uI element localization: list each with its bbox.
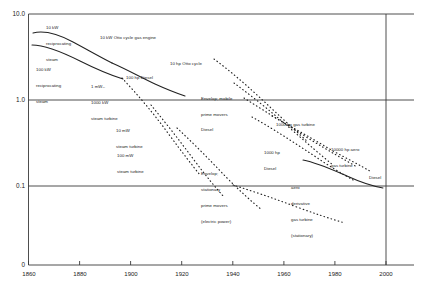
y-tick-label-0: 0 xyxy=(1,261,25,268)
annotation-line: 1000 kW xyxy=(91,100,118,105)
annotation-line: prime movers xyxy=(201,112,232,117)
y-tick-label-0-1: 0.1 xyxy=(1,182,25,189)
x-tick-label-1860: 1860 xyxy=(17,271,41,277)
annotation-line: 100 kW xyxy=(36,67,61,72)
annotation-1000hp-diesel: 1000 hp Diesel xyxy=(264,139,280,182)
annotation-line: stationary xyxy=(201,187,231,192)
annotation-line: 1 mW– xyxy=(91,84,118,89)
annotation-envelop-stationary-prime-movers: Envelop; stationary prime movers (electr… xyxy=(201,160,231,236)
annotation-line: (electric power) xyxy=(201,219,231,224)
annotation-line: gas turbine xyxy=(331,163,359,168)
x-tick-label-1900: 1900 xyxy=(119,271,143,277)
annotation-100hp-diesel: 100 hp Diesel xyxy=(126,75,153,80)
annotation-line: derivative xyxy=(291,201,313,206)
annotation-line: Envelop; mobile xyxy=(201,96,232,101)
annotation-100kw-reciprocating-steam: 100 kW reciprocating steam xyxy=(36,56,61,115)
annotation-100mw-steam-turbine: 100 mW steam turbine xyxy=(117,142,144,185)
chart-container: 10.0 1.0 0.1 0 1860 1880 1900 1920 1940 … xyxy=(0,0,423,298)
x-tick-label-1920: 1920 xyxy=(170,271,194,277)
annotation-line: (stationary) xyxy=(291,233,313,238)
annotation-line: 100 mW xyxy=(117,153,144,158)
annotation-10000hp-aero-gas-turbine: 10000 hp aero gas turbine xyxy=(331,136,359,179)
x-tick-label-1960: 1960 xyxy=(272,271,296,277)
annotation-10kw-otto-cycle-gas-engine: 10 kW Otto cycle gas engine xyxy=(100,35,156,40)
annotation-diesel-mid: Diesel xyxy=(201,127,213,132)
x-tick-label-2000: 2000 xyxy=(374,271,398,277)
annotation-line: reciprocating xyxy=(46,41,71,46)
annotation-line: 10 mW xyxy=(116,128,143,133)
annotation-line: steam turbine xyxy=(117,169,144,174)
annotation-line: gas turbine xyxy=(291,217,313,222)
curve-aero-derivative-gas-turbine xyxy=(233,185,345,223)
annotation-line: Envelop; xyxy=(201,171,231,176)
annotation-diesel-right: Diesel xyxy=(369,175,381,180)
y-tick-label-1: 1.0 xyxy=(1,96,25,103)
annotation-line: 10000 hp aero xyxy=(331,147,359,152)
annotation-line: prime movers xyxy=(201,203,231,208)
y-tick-label-10: 10.0 xyxy=(1,10,25,17)
annotation-line: reciprocating xyxy=(36,83,61,88)
annotation-1000hp-gas-turbine: 1000 hp gas turbine xyxy=(276,122,315,127)
annotation-line: steam xyxy=(36,99,61,104)
annotation-aero-derivative-gas-turbine: aero derivative gas turbine (stationary) xyxy=(291,174,313,250)
annotation-line: 10 kW xyxy=(46,25,71,30)
annotation-envelop-mobile-prime-movers: Envelop; mobile prime movers xyxy=(201,85,232,128)
x-tick-label-1980: 1980 xyxy=(323,271,347,277)
annotation-line: aero xyxy=(291,185,313,190)
annotation-line: 1000 hp xyxy=(264,150,280,155)
annotation-1mw-1000kw-steam-turbine: 1 mW– 1000 kW steam turbine xyxy=(91,73,118,132)
x-tick-marks xyxy=(29,261,387,265)
annotation-10hp-otto-cycle: 10 hp Otto cycle xyxy=(170,61,202,66)
x-tick-label-1940: 1940 xyxy=(221,271,245,277)
annotation-line: steam turbine xyxy=(91,116,118,121)
x-tick-label-1880: 1880 xyxy=(68,271,92,277)
annotation-line: Diesel xyxy=(264,166,280,171)
